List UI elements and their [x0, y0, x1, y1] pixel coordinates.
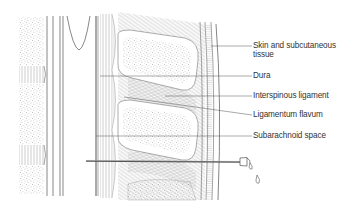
spinal-canal-lines	[47, 16, 98, 196]
label-interspinous-ligament: Interspinous ligament	[253, 91, 329, 100]
label-skin-line2: tissue	[253, 50, 336, 59]
dura-band	[100, 14, 112, 198]
label-subarachnoid-space: Subarachnoid space	[253, 131, 326, 140]
label-skin: Skin and subcutaneous tissue	[253, 41, 336, 59]
label-skin-line1: Skin and subcutaneous	[253, 41, 336, 50]
csf-drop-1	[249, 163, 252, 169]
label-dura: Dura	[253, 71, 270, 80]
vertebral-bodies	[19, 17, 46, 194]
label-ligamentum-flavum: Ligamentum flavum	[253, 110, 323, 119]
spinal-cord-conus	[67, 16, 90, 50]
csf-drop-2	[256, 175, 260, 183]
lumbar-puncture-diagram	[0, 0, 354, 212]
needle-hub	[240, 158, 247, 167]
